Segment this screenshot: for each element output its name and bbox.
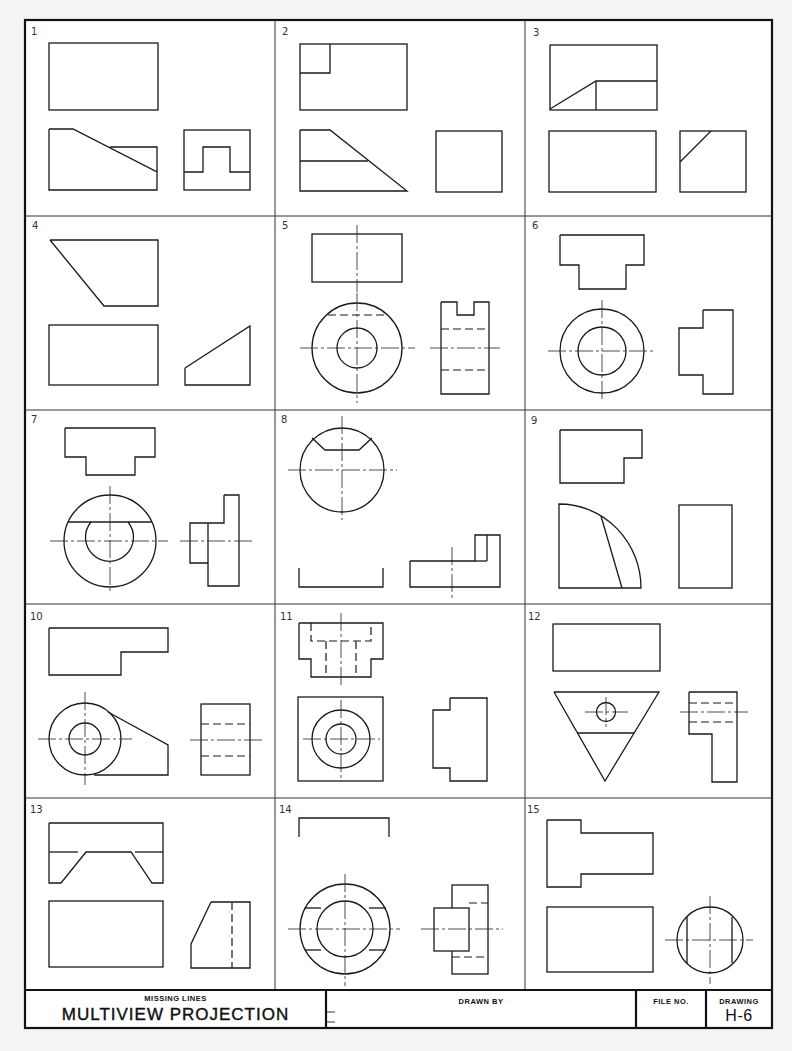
problem-number-14: 14 [279, 804, 292, 815]
title-block-title: MULTIVIEW PROJECTION [25, 1005, 326, 1025]
file-no-field[interactable] [640, 1008, 702, 1026]
problem-number-1: 1 [31, 26, 37, 37]
file-no-label: FILE NO. [636, 997, 706, 1006]
problem-number-5: 5 [282, 220, 288, 231]
problem-number-3: 3 [533, 27, 539, 38]
problem-number-12: 12 [528, 611, 541, 622]
problem-number-7: 7 [31, 414, 37, 425]
problem-number-9: 9 [531, 415, 537, 426]
problem-number-15: 15 [527, 804, 540, 815]
multiview-worksheet: 1 2 3 4 5 6 7 8 9 10 11 12 13 14 15 [0, 0, 792, 1051]
drawing-label: DRAWING [706, 997, 772, 1006]
drawn-by-label: DRAWN BY [326, 997, 636, 1006]
drawn-by-field[interactable] [340, 1008, 630, 1026]
drawing-number: H-6 [706, 1007, 772, 1025]
problem-number-11: 11 [280, 611, 293, 622]
problem-number-10: 10 [30, 611, 43, 622]
title-block-subtitle: MISSING LINES [25, 994, 326, 1003]
problem-number-13: 13 [30, 804, 43, 815]
problem-number-6: 6 [532, 220, 538, 231]
drawing-sheet: 1 2 3 4 5 6 7 8 9 10 11 12 13 14 15 [0, 0, 792, 1051]
problem-number-4: 4 [32, 220, 38, 231]
problem-number-8: 8 [281, 414, 287, 425]
problem-number-2: 2 [282, 26, 288, 37]
